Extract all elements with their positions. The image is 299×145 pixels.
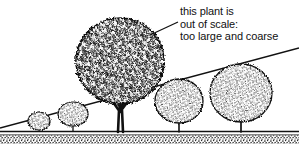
callout-leader-line [150,22,178,35]
ground [0,132,299,145]
plant-shrub-1 [28,112,50,132]
plant-tree-right-2 [210,64,272,132]
plant-tree-right-1 [155,79,203,132]
illustration-canvas: this plant is out of scale: too large an… [0,0,299,144]
callout-line-1: this plant is [180,5,299,18]
callout-line-2: out of scale: [180,18,299,31]
out-of-scale-callout: this plant is out of scale: too large an… [180,5,299,43]
plant-shrub-2 [58,102,88,132]
callout-line-3: too large and coarse [180,30,299,43]
